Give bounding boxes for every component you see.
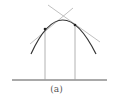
- tangent-point-right: [74, 24, 77, 27]
- parabola-curve: [31, 20, 96, 54]
- tangent-line-left: [30, 8, 73, 44]
- tangent-point-left: [44, 28, 47, 31]
- figure-caption: (a): [0, 84, 113, 94]
